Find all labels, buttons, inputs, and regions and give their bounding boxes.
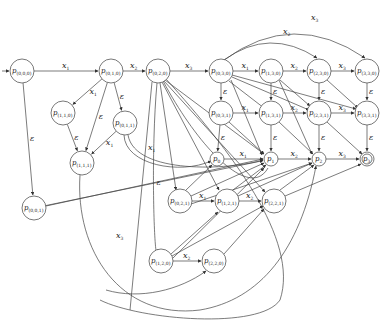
edge-label: x3 <box>185 61 193 71</box>
edge-n030-n230 <box>224 43 317 60</box>
edge-label: ε <box>273 87 277 96</box>
edge-label: x1 <box>106 138 114 148</box>
state-node-p1: p1 <box>264 152 278 166</box>
edge-label: x1 <box>242 61 250 71</box>
edge-label: ε <box>99 112 103 121</box>
state-node-n110: p(1,1,0) <box>51 101 75 125</box>
edge-label: x1 <box>199 191 207 201</box>
edge-label: x2 <box>183 251 191 261</box>
edge-label-x1-curve: x1 <box>148 143 156 153</box>
automaton-diagram: x1x2x3x1x2x3x1x2x3x1x2x3x1x2x2x1x1εεεεεε… <box>0 0 392 329</box>
edge-eps <box>327 122 362 154</box>
edge-eps <box>224 209 264 254</box>
edge-eps <box>279 122 313 154</box>
edge-n031-p0 <box>218 125 220 151</box>
edge-label: x2 <box>130 61 138 71</box>
state-node-n231: p(2,3,1) <box>307 101 331 125</box>
state-node-n230: p(2,3,0) <box>307 59 331 83</box>
edge-label: x3 <box>339 61 347 71</box>
state-node-n330: p(3,3,0) <box>355 59 379 83</box>
state-node-n111: p(1,1,1) <box>70 151 94 175</box>
edge-label: x1 <box>240 149 248 159</box>
edge-label: ε <box>321 133 325 142</box>
edge-label-x3-long: x3 <box>116 231 124 241</box>
state-node-n011: p(0,1,1) <box>113 111 137 135</box>
edge-label-x2-top: x2 <box>283 27 291 37</box>
edge-eps <box>285 164 361 196</box>
edge-eps <box>162 82 219 190</box>
edge-label: ε <box>156 178 160 187</box>
edge-label: ε <box>369 87 373 96</box>
edge-label-x3-top: x3 <box>311 13 319 23</box>
state-node-n121: p(1,2,1) <box>215 189 239 213</box>
edge-eps <box>229 122 264 154</box>
edge-eps <box>186 165 212 190</box>
edge-label: x2 <box>246 191 254 201</box>
edge-label: ε <box>30 134 34 143</box>
edge-curve <box>106 271 206 294</box>
edge-eps <box>153 83 158 254</box>
edge-label: ε <box>273 133 277 142</box>
edge-label: x1 <box>62 61 70 71</box>
edge-eps <box>229 81 264 108</box>
state-node-n020: p(0,2,0) <box>146 59 170 83</box>
edge-label: ε <box>321 87 325 96</box>
state-node-n000: p(0,0,0) <box>10 59 34 83</box>
edge-label: ε <box>120 92 124 101</box>
state-node-n131: p(1,3,1) <box>259 101 283 125</box>
edge-eps <box>233 165 266 190</box>
state-node-n221: p(2,2,1) <box>262 189 286 213</box>
state-node-n120: p(1,2,0) <box>149 249 173 273</box>
state-node-n220: p(2,2,0) <box>202 249 226 273</box>
state-node-n001: p(0,0,1) <box>22 196 46 220</box>
edge-x1 <box>124 135 211 167</box>
edge-label: x3 <box>339 149 347 159</box>
edge-label: x1 <box>89 87 97 97</box>
edge-n010-n110 <box>73 79 102 105</box>
edge-eps <box>171 212 218 254</box>
state-node-p0: p0 <box>210 152 224 166</box>
edge-label: ε <box>74 133 78 142</box>
state-node-n021: p(0,2,1) <box>168 189 192 213</box>
edge-eps <box>231 80 262 155</box>
edge-label: ε <box>221 133 225 142</box>
edge-label: ε <box>223 87 227 96</box>
state-node-n030: p(0,3,0) <box>209 59 233 83</box>
state-node-n010: p(0,1,0) <box>99 59 123 83</box>
edge-label: ε <box>369 133 373 142</box>
state-node-p3: p3 <box>360 152 374 166</box>
state-node-p2: p2 <box>312 152 326 166</box>
edge-label: x2 <box>291 61 299 71</box>
state-node-n331: p(3,3,1) <box>355 101 379 125</box>
edge-eps <box>160 83 176 190</box>
edge-label: x2 <box>291 149 299 159</box>
state-node-n130: p(1,3,0) <box>259 59 283 83</box>
edge-eps <box>279 80 312 154</box>
state-node-n031: p(0,3,1) <box>209 101 233 125</box>
